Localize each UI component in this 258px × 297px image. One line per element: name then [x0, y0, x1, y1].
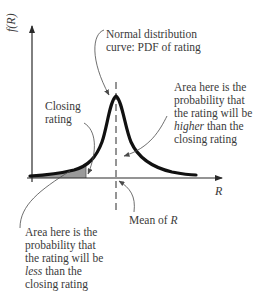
higher-area-line1: Area here is the [174, 81, 252, 94]
normal-curve-label: Normal distribution curve: PDF of rating [106, 28, 201, 54]
less-area-line4: less than the [25, 265, 103, 278]
higher-area-line4-rest: than the [204, 120, 244, 132]
y-axis-label: f(R) [4, 13, 19, 32]
mean-label-prefix: Mean of [129, 214, 171, 226]
less-area-line2: probability that [25, 239, 103, 252]
mean-label-var: R [171, 214, 178, 226]
higher-area-line2: probability that [174, 94, 252, 107]
higher-area-line4: higher than the [174, 120, 252, 133]
less-emphasis: less [25, 265, 42, 277]
higher-area-line3: the rating will be [174, 107, 252, 120]
less-area-label: Area here is the probability that the ra… [25, 226, 103, 291]
higher-area-line5: closing rating [174, 133, 252, 146]
less-area-line4-rest: than the [42, 265, 82, 277]
normal-curve-label-line1: Normal distribution [106, 28, 201, 41]
x-axis-label: R [215, 184, 222, 199]
closing-rating-label-line1: Closing [45, 100, 81, 113]
closing-rating-label: Closing rating [45, 100, 81, 126]
normal-curve-label-line2: curve: PDF of rating [106, 41, 201, 54]
higher-emphasis: higher [174, 120, 204, 132]
leader-less-area [20, 171, 70, 228]
less-area-line5: closing rating [25, 278, 103, 291]
mean-label: Mean of R [129, 214, 178, 227]
less-area-line3: the rating will be [25, 252, 103, 265]
leader-mean [119, 181, 134, 212]
less-area-line1: Area here is the [25, 226, 103, 239]
closing-rating-label-line2: rating [45, 113, 81, 126]
higher-area-label: Area here is the probability that the ra… [174, 81, 252, 146]
